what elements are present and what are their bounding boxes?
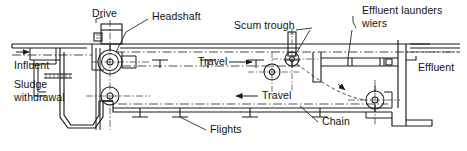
label-effluent-launders: Effluent launders: [362, 5, 442, 17]
water-surface-line: [12, 52, 460, 55]
lower-right-frame: [366, 92, 392, 118]
label-effluent: Effluent: [418, 62, 454, 74]
chain-curve-arrow: [338, 84, 345, 90]
leader-lines: [96, 16, 356, 130]
label-scum-trough: Scum trough: [234, 20, 295, 32]
chain-curve-right: [297, 64, 365, 100]
label-wiers: wiers: [362, 18, 387, 30]
sludge-withdrawal-pipe: [44, 74, 72, 78]
label-flights: Flights: [210, 124, 242, 136]
label-influent: Influent: [14, 60, 49, 72]
label-travel-top: Travel: [198, 56, 227, 68]
effluent-launder-trough: [313, 52, 392, 82]
figure-canvas: Drive Headshaft Scum trough Effluent lau…: [0, 0, 467, 151]
label-headshaft: Headshaft: [152, 11, 201, 23]
label-travel-bottom: Travel: [262, 90, 291, 102]
label-sludge: Sludge: [14, 79, 47, 91]
tank-outline: [12, 40, 432, 128]
drive-unit: [94, 24, 122, 44]
label-chain: Chain: [322, 116, 350, 128]
label-withdrawal: withdrawal: [14, 92, 65, 104]
label-drive: Drive: [92, 8, 117, 20]
